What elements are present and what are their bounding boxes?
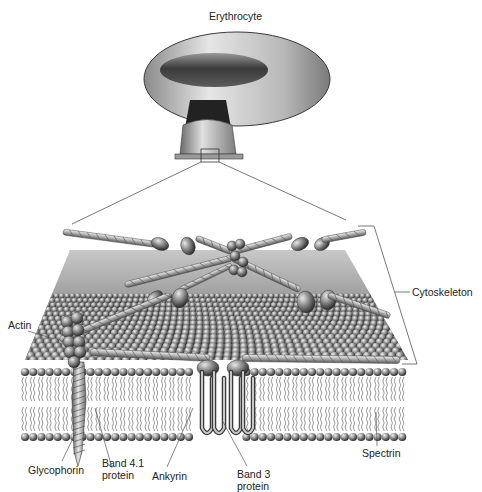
label-band3-line2: protein	[237, 480, 270, 492]
outer-head	[382, 368, 390, 376]
lipid-tail	[161, 377, 162, 401]
lipid-tail	[112, 407, 113, 431]
inner-head	[144, 433, 152, 441]
lipid-tail	[301, 407, 302, 431]
lipid-tail	[42, 377, 43, 401]
inner-head	[62, 433, 70, 441]
lipid-tail	[394, 407, 395, 431]
lipid-tail	[137, 407, 138, 431]
lipid-tail	[107, 407, 108, 431]
lipid-tail	[268, 407, 269, 431]
lipid-head	[194, 293, 199, 298]
lipid-tail	[361, 407, 362, 431]
spectrin-filament	[63, 229, 161, 248]
lipid-tail	[96, 377, 97, 401]
label-ankyrin: Ankyrin	[152, 470, 187, 482]
lipid-tail	[115, 377, 116, 401]
lipid-tail	[399, 377, 400, 401]
lipid-tail	[132, 407, 133, 431]
lipid-tail	[129, 377, 130, 401]
lipid-tail	[402, 377, 403, 401]
lipid-tail	[284, 407, 285, 431]
inner-head	[300, 433, 308, 441]
lipid-tail	[115, 407, 116, 431]
lipid-tail	[260, 407, 261, 431]
lipid-tail	[304, 377, 305, 401]
lipid-tail	[145, 407, 146, 431]
lipid-tail	[66, 377, 67, 401]
outer-head	[177, 368, 185, 376]
outer-head	[103, 368, 111, 376]
lipid-tail	[342, 377, 343, 401]
inner-head	[185, 433, 193, 441]
outer-head	[292, 368, 300, 376]
outer-head	[160, 368, 168, 376]
lipid-tail	[325, 407, 326, 431]
lipid-tail	[137, 377, 138, 401]
lipid-tail	[337, 407, 338, 431]
lipid-tail	[350, 407, 351, 431]
lipid-head	[49, 293, 54, 298]
outer-head	[152, 368, 160, 376]
lipid-tail	[88, 407, 89, 431]
label-spectrin: Spectrin	[362, 447, 401, 459]
lipid-tail	[104, 407, 105, 431]
lipid-head	[274, 293, 279, 298]
lipid-tail	[63, 407, 64, 431]
lipid-tail	[296, 377, 297, 401]
lipid-tail	[263, 407, 264, 431]
lipid-tail	[337, 377, 338, 401]
lipid-tail	[271, 377, 272, 401]
label-band41-line1: Band 4.1	[102, 457, 144, 469]
inner-head	[128, 433, 136, 441]
inner-head	[275, 433, 283, 441]
lipid-tail	[378, 407, 379, 431]
inner-head	[267, 433, 275, 441]
lipid-tail	[309, 407, 310, 431]
lipid-tail	[91, 407, 92, 431]
inner-head	[95, 433, 103, 441]
lipid-tail	[288, 377, 289, 401]
lipid-tail	[186, 377, 187, 401]
inner-head	[357, 433, 365, 441]
lipid-tail	[276, 377, 277, 401]
outer-head	[316, 368, 324, 376]
glycophorin	[72, 362, 86, 466]
inner-head	[374, 433, 382, 441]
lipid-tail	[38, 407, 39, 431]
lipid-tail	[312, 377, 313, 401]
lipid-head	[105, 356, 113, 364]
inner-head	[119, 433, 127, 441]
outer-head	[398, 368, 406, 376]
lipid-tail	[276, 407, 277, 431]
lipid-tail	[161, 407, 162, 431]
lipid-tail	[47, 377, 48, 401]
lipid-tail	[156, 407, 157, 431]
inner-head	[292, 433, 300, 441]
lipid-tail	[181, 377, 182, 401]
outer-head	[144, 368, 152, 376]
lipid-tail	[334, 407, 335, 431]
lipid-tail	[189, 407, 190, 431]
lipid-tail	[30, 377, 31, 401]
outer-head	[37, 368, 45, 376]
lipid-tail	[268, 377, 269, 401]
label-band41-protein: Band 4.1 protein	[102, 457, 144, 481]
lipid-tail	[293, 407, 294, 431]
lipid-tail	[58, 407, 59, 431]
inner-head	[324, 433, 332, 441]
label-band41-line2: protein	[102, 469, 144, 481]
label-band3-line1: Band 3	[237, 468, 270, 480]
inner-head	[398, 433, 406, 441]
lipid-tail	[317, 407, 318, 431]
lipid-tail	[312, 407, 313, 431]
lipid-tail	[399, 407, 400, 431]
lipid-tail	[329, 377, 330, 401]
actin-monomer	[235, 239, 245, 249]
lipid-tail	[88, 377, 89, 401]
lipid-head	[88, 356, 96, 364]
lipid-tail	[33, 377, 34, 401]
lipid-tail	[63, 377, 64, 401]
inner-head	[365, 433, 373, 441]
lipid-tail	[186, 407, 187, 431]
